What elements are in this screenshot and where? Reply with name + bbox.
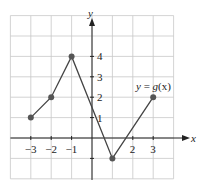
graph: −3−2−1231234 x y y = g(x) <box>0 0 202 187</box>
x-tick-label: −1 <box>66 143 78 155</box>
y-tick-label: 4 <box>97 50 103 62</box>
data-point <box>150 94 156 100</box>
data-point <box>48 94 54 100</box>
y-tick-label: 2 <box>97 91 103 103</box>
data-point <box>69 53 75 59</box>
function-label: y = g(x) <box>135 80 171 93</box>
data-point <box>109 155 115 161</box>
x-tick-label: −2 <box>45 143 57 155</box>
x-tick-label: −3 <box>25 143 37 155</box>
x-tick-label: 3 <box>150 143 156 155</box>
y-tick-label: 3 <box>97 71 103 83</box>
y-axis-label: y <box>87 7 93 19</box>
data-point <box>28 115 34 121</box>
x-tick-label: 2 <box>130 143 136 155</box>
x-axis-label: x <box>190 132 196 144</box>
